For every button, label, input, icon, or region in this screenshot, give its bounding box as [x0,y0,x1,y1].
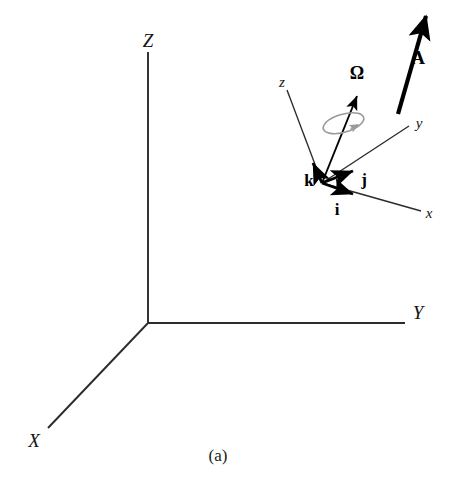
unit-vector-label-i: i [335,201,340,218]
global-axis-label-X: X [28,431,40,450]
diagram-canvas [0,0,451,488]
figure-rotating-reference-frame: Z Y X z y x k j i Ω A (a) [0,0,451,488]
rotation-ellipse-group [321,109,366,138]
global-axis-X-line [48,323,148,428]
vector-A-label: A [411,48,425,67]
omega-vector-label: Ω [350,64,364,82]
global-axis-label-Z: Z [143,31,154,50]
body-axis-label-z: z [279,75,285,90]
unit-vectors-group [313,163,353,194]
unit-vector-label-k: k [304,172,313,189]
global-axis-label-Y: Y [413,303,424,322]
unit-vector-k-arrow [313,163,322,183]
figure-caption: (a) [209,447,228,464]
unit-vector-i-arrow [322,183,353,194]
rotation-ellipse-arc [321,109,366,138]
unit-vector-label-j: j [361,171,367,188]
body-axis-label-y: y [416,116,423,131]
body-axis-label-x: x [426,206,433,221]
